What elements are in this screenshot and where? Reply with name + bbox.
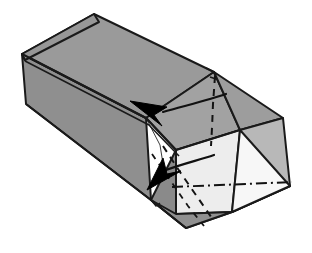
diagram-canvas: Rectangular box fold diagram Three-dimen… — [0, 0, 312, 253]
box-fold-illustration — [0, 0, 312, 253]
